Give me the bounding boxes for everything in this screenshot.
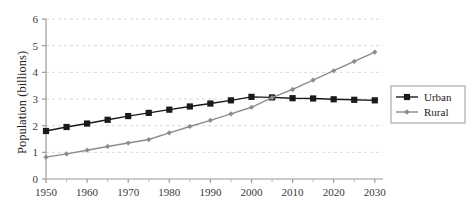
x-tick-label: 1980 — [158, 186, 181, 198]
data-point-marker — [249, 105, 254, 110]
data-point-marker — [84, 120, 90, 126]
legend-label: Urban — [424, 91, 452, 103]
grid-lines — [46, 19, 383, 152]
x-tick-label: 1950 — [35, 186, 58, 198]
x-tick-label: 2000 — [240, 186, 263, 198]
y-tick-label: 2 — [33, 120, 39, 132]
data-point-marker — [43, 128, 49, 134]
data-point-marker — [105, 117, 111, 123]
data-point-marker — [105, 144, 110, 149]
y-tick-label: 1 — [33, 146, 39, 158]
y-tick-label: 4 — [33, 66, 39, 78]
x-tick-label: 2030 — [364, 186, 387, 198]
data-point-marker — [310, 95, 316, 101]
data-point-marker — [289, 95, 295, 101]
x-tick-label: 2010 — [282, 186, 305, 198]
data-point-marker — [228, 97, 234, 103]
data-point-marker — [187, 103, 193, 109]
data-point-marker — [351, 97, 357, 103]
x-tick-label: 1990 — [199, 186, 222, 198]
data-point-marker — [187, 124, 192, 129]
data-point-marker — [166, 107, 172, 113]
data-point-marker — [248, 94, 254, 100]
x-tick-label: 1970 — [117, 186, 140, 198]
data-point-marker — [404, 94, 410, 100]
population-line-chart: 0123456195019601970198019902000201020202… — [0, 0, 472, 215]
data-point-marker — [352, 59, 357, 64]
data-point-marker — [63, 124, 69, 130]
data-point-marker — [125, 113, 131, 119]
chart-legend: UrbanRural — [391, 86, 465, 123]
legend-label: Rural — [424, 106, 448, 118]
data-point-marker — [372, 49, 377, 54]
data-point-marker — [208, 118, 213, 123]
data-point-marker — [228, 111, 233, 116]
y-tick-label: 3 — [33, 93, 39, 105]
chart-figure: Population (billions) 012345619501960197… — [0, 0, 472, 215]
data-point-marker — [290, 87, 295, 92]
x-tick-label: 1960 — [76, 186, 99, 198]
data-point-marker — [331, 96, 337, 102]
y-tick-label: 5 — [33, 40, 39, 52]
x-axis-ticks: 195019601970198019902000201020202030 — [35, 179, 386, 198]
y-tick-label: 0 — [33, 173, 39, 185]
data-point-marker — [43, 155, 48, 160]
data-point-marker — [207, 100, 213, 106]
data-point-marker — [311, 77, 316, 82]
data-point-marker — [146, 110, 152, 116]
data-point-marker — [146, 137, 151, 142]
y-tick-label: 6 — [33, 13, 39, 25]
data-point-marker — [372, 97, 378, 103]
x-tick-label: 2020 — [323, 186, 346, 198]
series-urban — [43, 94, 378, 134]
y-axis-ticks: 0123456 — [33, 13, 47, 185]
data-point-marker — [126, 140, 131, 145]
data-point-marker — [167, 130, 172, 135]
